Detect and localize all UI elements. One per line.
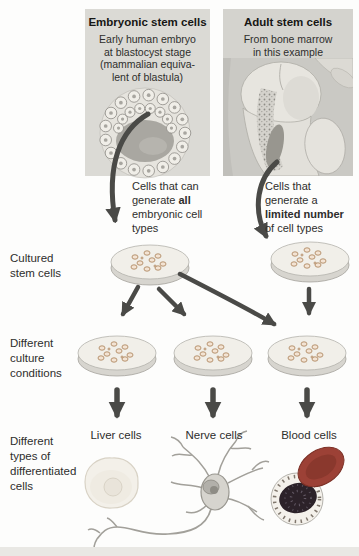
adult-panel-description: From bone marrow in this example	[223, 28, 353, 58]
text-line: Cells that can	[132, 179, 204, 193]
label-liver-cells: Liver cells	[90, 429, 141, 441]
embryonic-panel-description: Early human embryo at blastocyst stage (…	[85, 28, 210, 83]
arrow-culture-to-condition-1	[123, 287, 138, 314]
text-segment-bold: all	[178, 194, 190, 206]
nerve-cell-illustration	[88, 431, 269, 552]
blood-cells-illustration	[271, 439, 351, 525]
petri-dish-adult-culture	[271, 242, 349, 282]
label-blood-cells: Blood cells	[281, 429, 337, 441]
text-line: generate a	[265, 193, 357, 207]
stem-cell-diagram: Embryonic stem cells Early human embryo …	[0, 0, 359, 556]
petri-dish-condition-3	[268, 336, 346, 376]
text-line: Cells that	[265, 179, 357, 193]
embryonic-capability-note: Cells that can generate all embryonic ce…	[132, 179, 204, 235]
petri-dishes	[78, 242, 349, 376]
text-line-bold: limited number	[265, 207, 357, 221]
adult-capability-note: Cells that generate a limited number of …	[265, 179, 357, 235]
arrow-culture-to-condition-2	[159, 289, 184, 314]
petri-dish-embryonic-culture	[111, 245, 189, 285]
embryonic-panel-title: Embryonic stem cells	[85, 9, 210, 28]
petri-dish-condition-2	[174, 336, 252, 376]
bottom-edge-artifact	[0, 547, 359, 556]
petri-dish-condition-1	[78, 336, 156, 376]
row-label-differentiated-cells: Different types of differentiated cells	[10, 434, 76, 494]
row-label-culture-conditions: Different culture conditions	[10, 336, 62, 381]
embryonic-panel: Embryonic stem cells Early human embryo …	[85, 9, 210, 176]
liver-cell-illustration	[85, 458, 138, 508]
text-line: of cell types	[265, 221, 357, 235]
text-line: generate all	[132, 193, 204, 207]
text-line: types	[132, 221, 204, 235]
label-nerve-cells: Nerve cells	[186, 429, 243, 441]
row-label-cultured-stem-cells: Cultured stem cells	[10, 251, 61, 281]
text-line: embryonic cell	[132, 207, 204, 221]
adult-panel-title: Adult stem cells	[223, 9, 353, 28]
adult-panel: Adult stem cells From bone marrow in thi…	[223, 9, 353, 176]
arrow-culture-to-condition-3	[180, 274, 274, 324]
text-segment: generate	[132, 194, 178, 206]
